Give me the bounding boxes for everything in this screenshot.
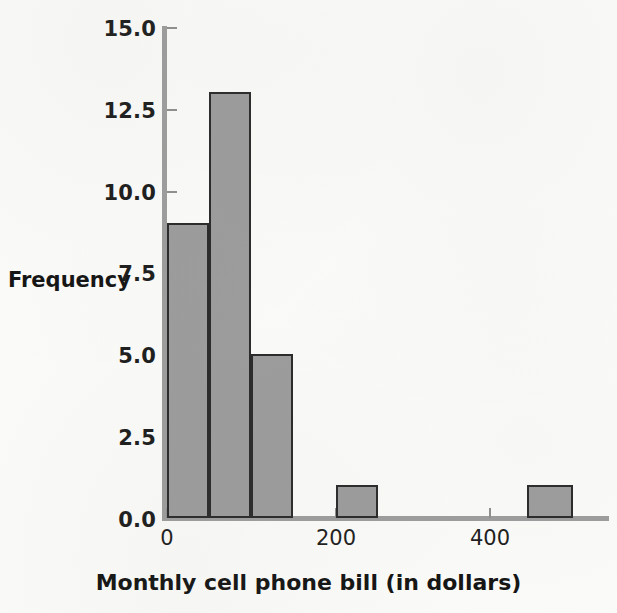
x-tick-label-200: 200	[306, 526, 366, 550]
y-tick-mark-12_5	[167, 109, 177, 111]
histogram-figure: 15.0 12.5 10.0 7.5 5.0 2.5 0.0 0 200 400…	[0, 0, 617, 613]
bar-bin-0-50	[167, 223, 209, 518]
y-tick-label-2_5: 2.5	[80, 426, 156, 450]
y-tick-mark-10	[167, 191, 177, 193]
x-tick-label-0: 0	[137, 526, 197, 550]
bar-bin-200-250	[336, 485, 378, 518]
y-tick-label-12_5: 12.5	[80, 99, 156, 123]
bar-bin-475-530	[527, 485, 573, 518]
bar-bin-100-150	[251, 354, 293, 518]
y-tick-mark-15	[167, 27, 177, 29]
x-tick-mark-400	[489, 508, 491, 518]
y-tick-label-15: 15.0	[80, 17, 156, 41]
x-tick-label-400: 400	[460, 526, 520, 550]
bar-bin-50-100	[209, 92, 251, 518]
x-axis-title: Monthly cell phone bill (in dollars)	[0, 570, 617, 595]
y-axis-title: Frequency	[8, 268, 131, 292]
y-tick-label-10: 10.0	[80, 181, 156, 205]
y-tick-label-5: 5.0	[80, 344, 156, 368]
plot-area: 15.0 12.5 10.0 7.5 5.0 2.5 0.0 0 200 400…	[0, 0, 617, 613]
